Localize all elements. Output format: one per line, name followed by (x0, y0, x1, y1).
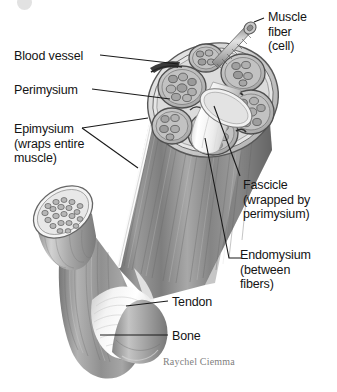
label-bone: Bone (172, 329, 201, 344)
label-perimysium: Perimysium (14, 83, 78, 98)
label-line: Epimysium (14, 122, 74, 136)
label-line: (cell) (268, 39, 294, 53)
label-line: Endomysium (240, 248, 311, 262)
label-fascicle: Fascicle(wrapped byperimysium) (243, 178, 310, 222)
illustration-credit: Raychel Ciemma (163, 356, 235, 367)
fascicle-bundle (158, 66, 206, 108)
isolated-cut-fascicle (24, 175, 103, 270)
label-line: Perimysium (14, 83, 78, 97)
label-line: (wraps entire (14, 137, 84, 151)
label-muscle-fiber: Musclefiber(cell) (268, 10, 307, 54)
label-epimysium: Epimysium(wraps entiremuscle) (14, 122, 84, 166)
label-line: muscle) (14, 151, 57, 165)
label-endomysium: Endomysium(betweenfibers) (240, 248, 311, 292)
muscle-anatomy-figure: Musclefiber(cell) Blood vessel Perimysiu… (0, 0, 337, 392)
label-line: Muscle (268, 10, 307, 24)
leader-muscle-fiber (254, 18, 264, 22)
label-line: Bone (172, 329, 201, 343)
label-line: fiber (268, 25, 292, 39)
label-line: Fascicle (243, 178, 288, 192)
leader-epimysium-a (82, 118, 148, 128)
label-line: perimysium) (243, 207, 309, 221)
label-line: Blood vessel (14, 49, 83, 63)
label-blood-vessel: Blood vessel (14, 49, 83, 64)
leader-epimysium-b (82, 128, 138, 168)
label-line: fibers) (240, 277, 274, 291)
label-line: (between (240, 263, 290, 277)
fascicle-bundle (152, 108, 192, 144)
label-tendon: Tendon (172, 295, 212, 310)
label-line: (wrapped by (243, 193, 310, 207)
leader-blood-vessel (100, 55, 178, 64)
label-line: Tendon (172, 295, 212, 309)
